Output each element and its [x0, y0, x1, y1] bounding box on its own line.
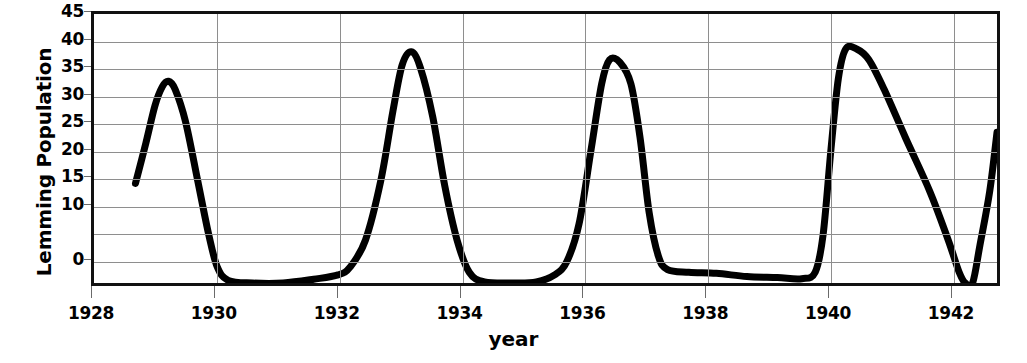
x-tick-label: 1942 [911, 303, 991, 323]
x-tick-mark [214, 286, 215, 298]
x-tick-label: 1938 [665, 303, 745, 323]
x-tick-mark [705, 286, 706, 298]
x-tick-label: 1936 [542, 303, 622, 323]
x-tick-label: 1934 [420, 303, 500, 323]
x-tick-label: 1928 [51, 303, 131, 323]
x-tick-label: 1930 [174, 303, 254, 323]
x-axis-title: year [0, 327, 1027, 351]
x-tick-label: 1932 [297, 303, 377, 323]
x-tick-mark [828, 286, 829, 298]
x-tick-label: 1940 [788, 303, 868, 323]
x-tick-mark [91, 286, 92, 298]
x-tick-mark [951, 286, 952, 298]
x-tick-mark [460, 286, 461, 298]
x-axis-layer: 19281930193219341936193819401942 [0, 0, 1027, 363]
lemming-population-chart: Lemming Population 01015202530354045 192… [0, 0, 1027, 363]
x-tick-mark [582, 286, 583, 298]
x-tick-mark [337, 286, 338, 298]
